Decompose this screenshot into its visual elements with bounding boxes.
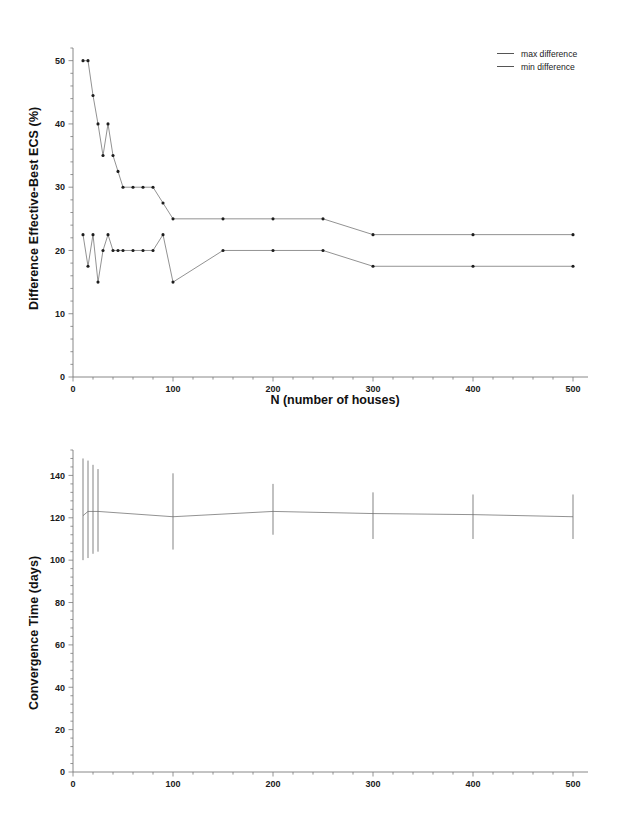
figure-container: 010020030040050001020304050 Difference E…	[0, 0, 626, 835]
svg-text:80: 80	[55, 598, 65, 608]
svg-text:10: 10	[55, 309, 65, 319]
legend: max difference min difference	[497, 47, 577, 73]
svg-text:120: 120	[50, 513, 65, 523]
svg-text:400: 400	[465, 779, 480, 789]
svg-text:30: 30	[55, 182, 65, 192]
svg-text:0: 0	[60, 372, 65, 382]
svg-text:300: 300	[365, 779, 380, 789]
legend-label-min: min difference	[521, 62, 575, 72]
svg-text:500: 500	[565, 779, 580, 789]
svg-text:100: 100	[50, 555, 65, 565]
chart-panel-convergence-time: 0100200300400500020406080100120140 Conve…	[0, 415, 626, 835]
legend-line-icon-min	[497, 66, 514, 67]
svg-text:50: 50	[55, 56, 65, 66]
legend-label-max: max difference	[521, 49, 577, 59]
svg-text:40: 40	[55, 683, 65, 693]
svg-text:40: 40	[55, 119, 65, 129]
svg-text:60: 60	[55, 640, 65, 650]
legend-item-min[interactable]: min difference	[497, 60, 577, 73]
svg-text:200: 200	[265, 779, 280, 789]
svg-text:100: 100	[165, 779, 180, 789]
plot-area-convergence-time: 0100200300400500020406080100120140	[0, 415, 626, 835]
legend-item-max[interactable]: max difference	[497, 47, 577, 60]
chart-panel-ecs-difference: 010020030040050001020304050 Difference E…	[0, 0, 626, 420]
svg-text:140: 140	[50, 471, 65, 481]
legend-line-icon-max	[497, 53, 514, 54]
svg-text:0: 0	[60, 767, 65, 777]
svg-text:20: 20	[55, 246, 65, 256]
svg-text:20: 20	[55, 725, 65, 735]
svg-text:0: 0	[70, 779, 75, 789]
x-axis-label-top: N (number of houses)	[22, 393, 626, 407]
